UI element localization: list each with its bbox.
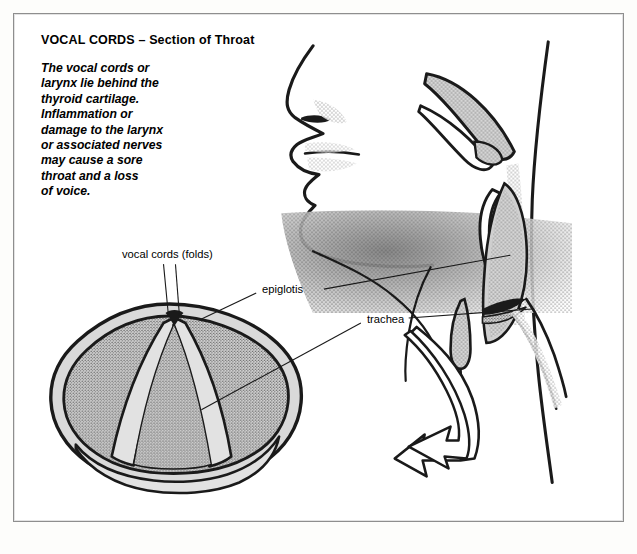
description-line: larynx lie behind the — [41, 76, 231, 91]
sagittal-section — [281, 42, 580, 483]
page-title: VOCAL CORDS – Section of Throat — [41, 33, 254, 47]
label-trachea: trachea — [367, 313, 404, 325]
description-line: throat and a loss — [41, 169, 231, 184]
vocal-cords-diagram — [51, 304, 302, 493]
description-line: thyroid cartilage. — [41, 92, 231, 107]
description-line: The vocal cords or — [41, 61, 231, 76]
description-line: may cause a sore — [41, 153, 231, 168]
description-line: or associated nerves — [41, 138, 231, 153]
illustration-frame: VOCAL CORDS – Section of Throat The voca… — [13, 13, 624, 522]
label-vocal-cords: vocal cords (folds) — [122, 248, 213, 260]
description-line: of voice. — [41, 184, 231, 199]
label-epiglotis: epiglotis — [262, 283, 303, 295]
chin-shading — [307, 158, 357, 172]
neck-shading — [281, 203, 580, 323]
description-line: Inflammation or — [41, 107, 231, 122]
description-line: damage to the larynx — [41, 123, 231, 138]
lip-shading — [305, 142, 355, 152]
page-background: VOCAL CORDS – Section of Throat The voca… — [0, 0, 637, 554]
description-text: The vocal cords or larynx lie behind the… — [41, 61, 231, 200]
